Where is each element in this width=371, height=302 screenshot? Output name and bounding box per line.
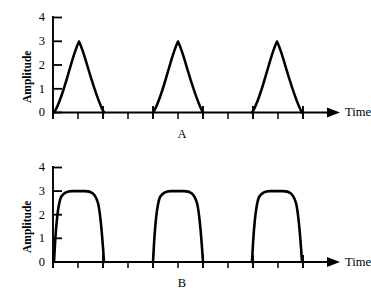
y-tick-label-3-a: 3 xyxy=(31,35,45,48)
y-tick-label-4-b: 4 xyxy=(31,161,45,174)
y-tick-label-2-b: 2 xyxy=(31,209,45,222)
y-tick-label-3-b: 3 xyxy=(31,185,45,198)
y-tick-label-0-b: 0 xyxy=(31,256,45,269)
waveform-curve-b xyxy=(54,191,302,262)
panel-label-b: B xyxy=(167,277,197,290)
y-tick-label-2-a: 2 xyxy=(31,59,45,72)
waveform-curve-a xyxy=(54,42,302,113)
x-axis-arrow-b xyxy=(327,257,340,267)
y-tick-label-1-a: 1 xyxy=(31,83,45,96)
x-axis-title-b: Time xyxy=(345,256,371,269)
y-tick-label-1-b: 1 xyxy=(31,232,45,245)
chart-panel-b: Amplitude 4 3 2 1 0 Time B xyxy=(0,151,371,302)
waveform-figure: Amplitude 4 3 2 1 0 Time A xyxy=(0,0,371,302)
y-tick-label-4-a: 4 xyxy=(31,11,45,24)
chart-panel-a: Amplitude 4 3 2 1 0 Time A xyxy=(0,0,371,151)
panel-label-a: A xyxy=(167,128,197,141)
x-axis-title-a: Time xyxy=(345,106,371,119)
y-tick-label-0-a: 0 xyxy=(31,106,45,119)
x-axis-arrow-a xyxy=(327,108,340,118)
